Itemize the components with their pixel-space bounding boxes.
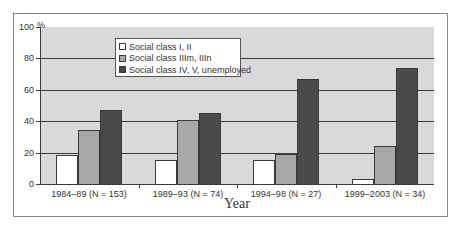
legend-swatch-icon <box>119 43 126 50</box>
y-tick <box>36 184 40 185</box>
x-axis-title: Year <box>224 196 250 212</box>
legend-swatch-icon <box>119 55 126 62</box>
legend: Social class I, II Social class IIIm, II… <box>115 38 241 77</box>
y-tick-label: 80 <box>14 53 34 63</box>
y-tick-label: 0 <box>14 179 34 189</box>
y-tick-label: 100 <box>14 22 34 32</box>
x-tick <box>139 184 140 188</box>
y-tick <box>36 58 40 59</box>
legend-item: Social class IIIm, IIIn <box>119 53 237 65</box>
y-axis <box>40 27 41 185</box>
x-tick <box>237 184 238 188</box>
x-tick <box>336 184 337 188</box>
bar <box>275 154 297 185</box>
bar <box>297 79 319 185</box>
bar <box>78 130 100 185</box>
bar <box>352 179 374 185</box>
gridline <box>40 90 434 91</box>
y-unit-label: % <box>37 20 45 30</box>
bar <box>374 146 396 185</box>
bar <box>155 160 177 185</box>
legend-swatch-icon <box>119 66 126 73</box>
y-tick <box>36 90 40 91</box>
y-tick <box>36 121 40 122</box>
bar <box>100 110 122 185</box>
legend-label: Social class IIIm, IIIn <box>129 53 212 63</box>
bar <box>177 120 199 185</box>
y-tick-label: 60 <box>14 85 34 95</box>
y-tick-label: 40 <box>14 116 34 126</box>
x-category-label: 1984–89 (N = 153) <box>39 189 139 199</box>
legend-label: Social class IV, V, unemployed <box>129 65 251 75</box>
x-category-label: 1999–2003 (N = 34) <box>335 189 435 199</box>
bar <box>199 113 221 185</box>
bar <box>253 160 275 185</box>
legend-item: Social class I, II <box>119 41 237 53</box>
legend-label: Social class I, II <box>129 42 192 52</box>
x-category-label: 1989–93 (N = 74) <box>138 189 238 199</box>
y-tick <box>36 27 40 28</box>
y-tick-label: 20 <box>14 148 34 158</box>
y-tick <box>36 153 40 154</box>
bar <box>396 68 418 185</box>
x-category-label: 1994–98 (N = 27) <box>236 189 336 199</box>
bar <box>56 155 78 185</box>
legend-item: Social class IV, V, unemployed <box>119 64 237 76</box>
